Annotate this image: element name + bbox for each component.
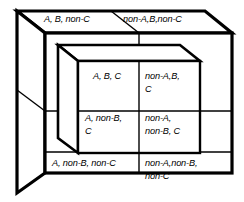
inner-cube-left-face	[58, 45, 78, 153]
label-a-nonb-nonc: A, non-B, non-C	[52, 157, 116, 170]
label-nona-nonb-c: non-A, non-B, C	[145, 112, 180, 137]
label-a-b-nonc: A, B, non-C	[44, 13, 90, 26]
label-a-b-c: A, B, C	[93, 70, 121, 83]
logic-cube-figure: A, B, non-C non-A,B,non-C A, B, C non-A,…	[0, 0, 244, 202]
label-nona-b-nonc: non-A,B,non-C	[123, 13, 182, 26]
outer-cube-left-face	[17, 11, 45, 193]
label-a-nonb-c: A, non-B, C	[85, 112, 122, 137]
label-nona-nonb-nonc: non-A,non-B, non-C	[145, 157, 197, 182]
inner-cube-top-face	[58, 45, 200, 61]
label-nona-b-c: non-A,B, C	[145, 70, 180, 95]
cube-diagram-svg	[0, 0, 244, 202]
